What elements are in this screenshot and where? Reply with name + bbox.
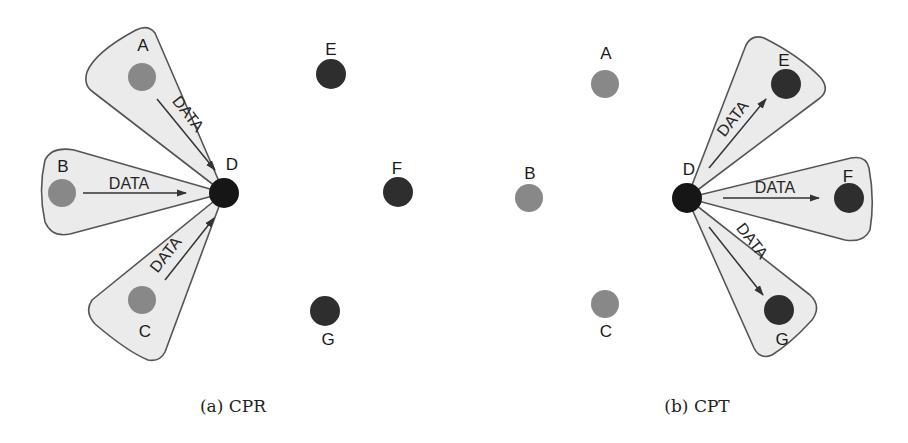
node-b-a <box>591 70 619 98</box>
data-label-b: DATA <box>109 175 150 192</box>
data-label-f: DATA <box>755 179 796 196</box>
label-b-c: C <box>600 322 612 341</box>
node-a-f <box>383 177 413 207</box>
node-b-d <box>672 183 702 213</box>
label-b-a: A <box>600 44 612 63</box>
node-b-g <box>764 295 794 325</box>
label-a-c: C <box>139 322 151 341</box>
label-b-d: D <box>683 160 695 179</box>
label-a-d: D <box>226 155 238 174</box>
node-b-b <box>515 184 543 212</box>
label-a-e: E <box>325 40 336 59</box>
node-a-b <box>48 179 76 207</box>
label-b-b: B <box>524 164 535 183</box>
node-a-d <box>209 178 239 208</box>
label-a-g: G <box>321 330 334 349</box>
node-a-e <box>316 59 346 89</box>
node-b-c <box>591 290 619 318</box>
label-b-e: E <box>778 51 789 70</box>
caption-b: (b) CPT <box>664 396 730 416</box>
node-b-e <box>771 69 801 99</box>
panel-b-cpt: DATA DATA DATA A B C D E F G (b) CPT <box>515 37 872 416</box>
cpr-cpt-diagram: DATA DATA DATA A B C D E F G (a) CPR DAT… <box>0 0 908 443</box>
panel-a-cpr: DATA DATA DATA A B C D E F G (a) CPR <box>42 28 414 416</box>
label-a-f: F <box>392 159 402 178</box>
label-a-a: A <box>137 36 149 55</box>
node-b-f <box>834 183 864 213</box>
node-a-a <box>128 63 156 91</box>
caption-a: (a) CPR <box>200 396 267 416</box>
node-a-c <box>128 286 156 314</box>
label-b-g: G <box>775 330 788 349</box>
node-a-g <box>310 296 340 326</box>
label-b-f: F <box>843 167 853 186</box>
label-a-b: B <box>57 157 68 176</box>
